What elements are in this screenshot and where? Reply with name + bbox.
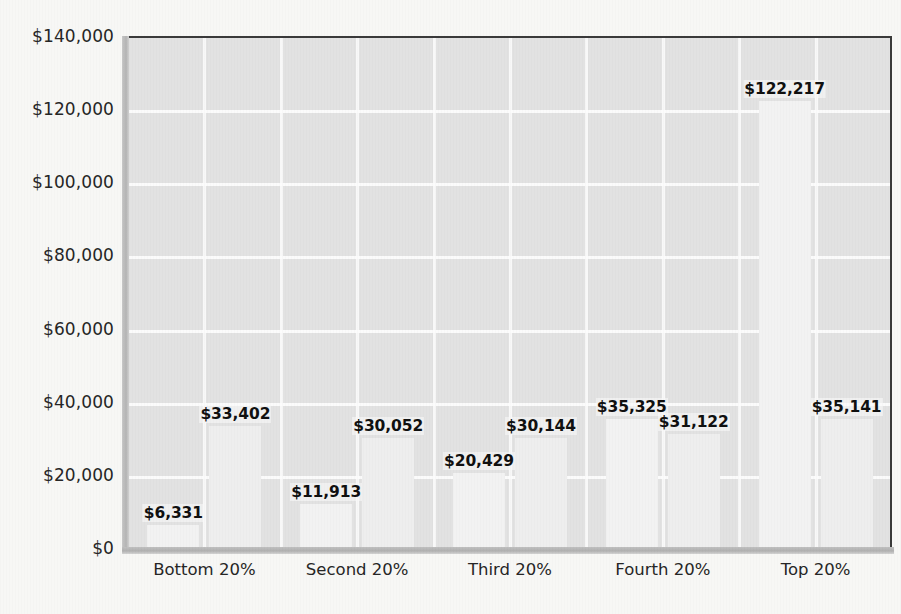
y-axis-tick-label: $140,000 [32,26,114,46]
x-axis-tick-label: Second 20% [306,560,409,579]
gridline-vertical [356,38,359,548]
bar [453,473,505,548]
y-axis-tick-label: $20,000 [43,465,114,485]
gridline-vertical [815,38,818,548]
y-axis-tick-label: $40,000 [43,392,114,412]
y-axis-tick-label: $100,000 [32,172,114,192]
gridline-vertical [433,38,436,548]
x-axis-tick-label: Top 20% [781,560,851,579]
gridline-vertical [585,38,588,548]
plot-area [128,36,892,548]
y-axis-tick-label: $0 [92,538,114,558]
bar [515,438,567,548]
gridline-vertical [203,38,206,548]
bar [362,438,414,548]
gridline-vertical [662,38,665,548]
y-axis: $0$20,000$40,000$60,000$80,000$100,000$1… [0,0,128,614]
gridline-vertical [738,38,741,548]
y-axis-rail [122,36,129,554]
x-axis-rail [122,547,894,554]
x-axis-tick-label: Third 20% [468,560,552,579]
bar-chart: $0$20,000$40,000$60,000$80,000$100,000$1… [0,0,901,614]
bar [606,419,658,548]
bar [668,434,720,548]
x-axis-tick-label: Bottom 20% [153,560,255,579]
gridline-vertical [280,38,283,548]
bar [147,525,199,548]
bar [300,504,352,548]
x-axis-tick-label: Fourth 20% [615,560,710,579]
bar [209,426,261,548]
bar [759,101,811,548]
y-axis-tick-label: $120,000 [32,99,114,119]
y-axis-tick-label: $80,000 [43,245,114,265]
y-axis-tick-label: $60,000 [43,319,114,339]
gridline-vertical [509,38,512,548]
bar [821,419,873,548]
x-axis: Bottom 20%Second 20%Third 20%Fourth 20%T… [128,560,892,600]
